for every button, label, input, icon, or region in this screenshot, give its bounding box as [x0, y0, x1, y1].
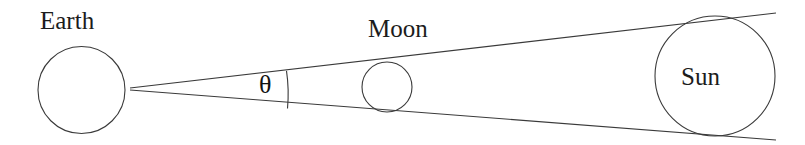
sun-label: Sun [681, 64, 720, 89]
earth-label: Earth [40, 8, 94, 33]
theta-angle-label: θ [259, 72, 271, 98]
angle-arc [287, 71, 289, 109]
upper-sight-line [130, 13, 776, 88]
earth-circle [38, 47, 125, 134]
moon-circle [362, 62, 412, 112]
diagram-canvas: Earth Moon Sun θ [0, 0, 805, 145]
moon-label: Moon [368, 16, 428, 41]
lower-sight-line [130, 90, 776, 140]
